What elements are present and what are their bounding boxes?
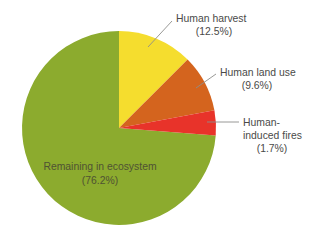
pie-chart-figure: Human harvest (12.5%) Human land use (9.… (0, 0, 315, 237)
pie-chart-svg: Human harvest (12.5%) Human land use (9.… (0, 0, 315, 237)
label-human-land-use-line2: (9.6%) (242, 80, 273, 91)
label-human-harvest-line1: Human harvest (176, 13, 247, 24)
label-remaining-in-ecosystem-line1: Remaining in ecosystem (43, 161, 156, 172)
label-human-land-use-line1: Human land use (220, 67, 296, 78)
label-remaining-in-ecosystem-line2: (76.2%) (82, 175, 118, 186)
label-human-harvest-line2: (12.5%) (196, 26, 232, 37)
label-human-induced-fires-line1: Human- (243, 117, 280, 128)
label-human-induced-fires-line2: induced fires (243, 130, 302, 141)
pie-slices-group (22, 31, 216, 225)
label-human-induced-fires-line3: (1.7%) (257, 143, 288, 154)
